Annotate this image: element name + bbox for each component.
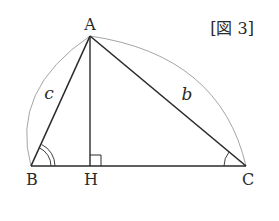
label-side-c: c [44, 83, 54, 103]
label-H: H [84, 170, 98, 189]
label-side-b: b [182, 84, 193, 104]
angle-C-arc [224, 152, 229, 166]
label-C: C [242, 170, 254, 189]
figure-caption: [図 3] [210, 19, 254, 38]
label-A: A [83, 15, 96, 34]
triangle-diagram: A B H C c b [図 3] [0, 0, 279, 221]
segment-AB [31, 36, 90, 166]
label-B: B [26, 170, 38, 189]
right-angle-mark [90, 155, 101, 166]
segment-AC [90, 36, 246, 166]
